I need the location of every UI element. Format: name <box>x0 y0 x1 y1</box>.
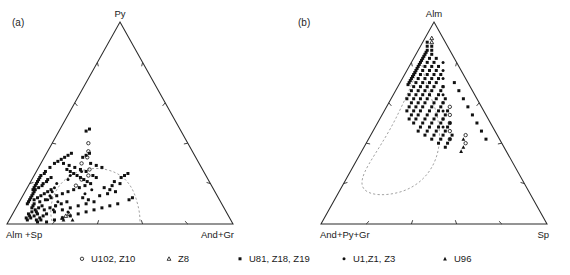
data-point <box>446 142 449 145</box>
data-point <box>439 122 442 125</box>
data-point <box>428 109 431 112</box>
data-point <box>52 208 55 211</box>
axis-tick <box>184 143 188 144</box>
data-point <box>67 190 70 193</box>
data-point <box>67 178 70 181</box>
legend-marker-filled-square <box>239 257 242 260</box>
axis-tick <box>75 103 78 106</box>
data-point <box>88 128 91 131</box>
data-point <box>69 170 72 173</box>
data-point <box>414 93 417 96</box>
legend-label: U102, Z10 <box>91 253 135 264</box>
legend-item-2[interactable]: U81, Z18, Z19 <box>239 253 310 264</box>
panel-a-left-label: Alm +Sp <box>6 229 42 240</box>
legend-item-0[interactable]: U102, Z10 <box>80 253 135 264</box>
data-point <box>433 101 436 104</box>
data-point <box>433 61 436 64</box>
data-point <box>408 105 411 108</box>
legend-label: U1,Z1, Z3 <box>353 253 395 264</box>
data-point <box>38 200 41 203</box>
data-point <box>471 113 474 116</box>
axis-tick <box>52 143 56 144</box>
axis-tick <box>411 220 412 224</box>
data-point <box>113 180 116 183</box>
axis-tick <box>141 220 142 224</box>
data-point <box>428 81 431 84</box>
panel-b-right-label: Sp <box>537 229 549 240</box>
data-point <box>433 85 436 88</box>
panel-b-tag: (b) <box>298 17 310 28</box>
data-point <box>448 113 451 116</box>
data-point <box>444 130 447 133</box>
data-point <box>91 174 94 177</box>
data-point <box>426 113 429 116</box>
legend-item-4[interactable]: U96 <box>443 253 471 264</box>
data-point <box>446 109 449 112</box>
data-point <box>442 126 445 129</box>
data-point <box>448 105 451 108</box>
panel-a-tag: (a) <box>12 17 24 28</box>
data-point <box>43 172 46 175</box>
data-point <box>426 73 429 76</box>
panel-a-triangle <box>7 22 233 224</box>
data-point <box>453 81 456 84</box>
data-point <box>45 212 48 215</box>
data-point <box>86 180 89 183</box>
data-point <box>39 194 42 197</box>
series-filled-triangle <box>459 137 465 153</box>
data-point <box>71 218 75 222</box>
data-point <box>446 126 449 129</box>
legend-item-1[interactable]: Z8 <box>167 253 189 264</box>
data-point <box>435 113 438 116</box>
data-point <box>93 200 96 203</box>
data-point <box>417 77 420 80</box>
data-point <box>419 109 422 112</box>
data-point <box>54 204 57 207</box>
data-point <box>435 69 438 72</box>
data-point <box>98 194 101 197</box>
data-point <box>42 182 45 185</box>
data-point <box>30 210 33 213</box>
data-point <box>417 130 420 133</box>
data-point <box>61 192 64 195</box>
axis-tick <box>97 62 98 66</box>
series-open-triangle <box>430 36 434 44</box>
data-point <box>67 154 70 157</box>
data-point <box>405 97 408 100</box>
legend-item-3[interactable]: U1,Z1, Z3 <box>343 253 396 264</box>
data-point <box>437 109 440 112</box>
data-point <box>439 89 442 92</box>
data-point <box>442 134 445 137</box>
data-point <box>464 142 467 145</box>
data-point <box>72 172 75 175</box>
panel-a-data-points <box>25 128 134 224</box>
data-point <box>85 170 88 173</box>
data-point <box>405 109 408 112</box>
axis-tick <box>498 143 502 144</box>
data-point <box>435 97 438 100</box>
data-point <box>37 206 40 209</box>
legend-label: U81, Z18, Z19 <box>249 253 310 264</box>
data-point <box>30 206 33 209</box>
data-point <box>417 89 420 92</box>
axis-tick <box>366 143 370 144</box>
data-point <box>442 117 445 120</box>
data-point <box>430 36 434 40</box>
data-point <box>435 57 438 60</box>
data-point <box>77 204 80 207</box>
data-point <box>426 97 429 100</box>
data-point <box>46 198 49 201</box>
data-point <box>55 194 58 197</box>
data-point <box>408 93 411 96</box>
data-point <box>123 174 126 177</box>
data-point <box>95 164 98 167</box>
data-point <box>426 41 429 44</box>
data-point <box>81 156 84 159</box>
data-point <box>120 176 123 179</box>
data-point <box>419 73 422 76</box>
axis-tick <box>389 103 392 106</box>
panel-a-right-label: And+Gr <box>201 229 234 240</box>
data-point <box>426 85 429 88</box>
data-point <box>459 149 463 153</box>
data-point <box>423 77 426 80</box>
